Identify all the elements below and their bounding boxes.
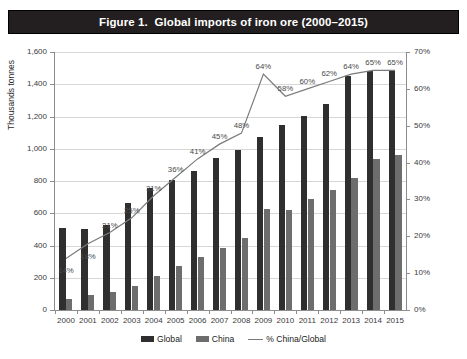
legend-swatch-line-icon bbox=[248, 339, 263, 340]
y-axis-left-tick bbox=[50, 117, 54, 118]
ratio-line-series bbox=[55, 52, 406, 310]
y-axis-right-tick bbox=[406, 52, 410, 53]
y-axis-left-tick bbox=[50, 246, 54, 247]
legend-label-global: Global bbox=[157, 334, 182, 344]
y-axis-right-tick bbox=[406, 163, 410, 164]
ratio-data-label: 60% bbox=[299, 77, 315, 86]
x-axis-tick bbox=[187, 310, 188, 314]
x-axis-tick bbox=[231, 310, 232, 314]
y-axis-left-tick bbox=[50, 213, 54, 214]
y-axis-left-tick-label: 1,200 bbox=[27, 112, 47, 121]
legend-label-ratio: % China/Global bbox=[266, 334, 326, 344]
y-axis-right-tick-label: 70% bbox=[414, 47, 430, 56]
x-axis-tick bbox=[121, 310, 122, 314]
ratio-data-label: 64% bbox=[256, 62, 272, 71]
ratio-data-label: 65% bbox=[387, 58, 403, 67]
y-axis-left-tick-label: 800 bbox=[34, 176, 47, 185]
x-axis-tick bbox=[362, 310, 363, 314]
ratio-data-label: 31% bbox=[146, 184, 162, 193]
y-axis-left-tick bbox=[50, 84, 54, 85]
y-axis-right-tick bbox=[406, 236, 410, 237]
y-axis-right-tick-label: 50% bbox=[414, 121, 430, 130]
ratio-data-label: 25% bbox=[124, 206, 140, 215]
x-axis-tick bbox=[165, 310, 166, 314]
y-axis-right-tick-label: 10% bbox=[414, 268, 430, 277]
y-axis-right-tick bbox=[406, 310, 410, 311]
ratio-data-label: 48% bbox=[234, 121, 250, 130]
chart-legend: Global China % China/Global bbox=[0, 334, 467, 344]
y-axis-right-tick-label: 0% bbox=[414, 305, 426, 314]
page-title: Figure 1. Global imports of iron ore (20… bbox=[99, 16, 368, 28]
ratio-data-label: 18% bbox=[80, 252, 96, 261]
ratio-data-label: 14% bbox=[58, 266, 74, 275]
y-axis-left-tick-label: 200 bbox=[34, 273, 47, 282]
ratio-data-label: 45% bbox=[212, 132, 228, 141]
plot-area: 02004006008001,0001,2001,4001,600 0%10%2… bbox=[55, 52, 406, 310]
y-axis-left-tick bbox=[50, 310, 54, 311]
legend-swatch-china-icon bbox=[196, 336, 209, 342]
x-axis-tick bbox=[209, 310, 210, 314]
legend-item-global[interactable]: Global bbox=[141, 334, 182, 344]
ratio-data-label: 62% bbox=[321, 69, 337, 78]
ratio-data-label: 41% bbox=[190, 147, 206, 156]
y-axis-left-tick-label: 400 bbox=[34, 241, 47, 250]
ratio-data-label: 65% bbox=[365, 58, 381, 67]
ratio-data-label: 21% bbox=[102, 221, 118, 230]
y-axis-right-tick bbox=[406, 89, 410, 90]
ratio-data-label: 58% bbox=[278, 84, 294, 93]
x-axis-tick bbox=[55, 310, 56, 314]
y-axis-left-tick bbox=[50, 181, 54, 182]
x-axis-tick bbox=[252, 310, 253, 314]
y-axis-left-tick-label: 600 bbox=[34, 208, 47, 217]
y-axis-right-tick-label: 30% bbox=[414, 194, 430, 203]
figure-title-bar: Figure 1. Global imports of iron ore (20… bbox=[8, 10, 459, 34]
x-axis-tick bbox=[143, 310, 144, 314]
y-axis-left-tick bbox=[50, 278, 54, 279]
y-axis-left-tick-label: 0 bbox=[43, 305, 47, 314]
ratio-line-path bbox=[66, 70, 395, 258]
figure-chart: Figure 1. Global imports of iron ore (20… bbox=[0, 0, 467, 359]
y-axis-left-tick-label: 1,400 bbox=[27, 79, 47, 88]
y-axis-left-tick-label: 1,600 bbox=[27, 47, 47, 56]
x-axis-tick bbox=[77, 310, 78, 314]
x-axis-tick bbox=[318, 310, 319, 314]
y-axis-right-tick bbox=[406, 199, 410, 200]
legend-swatch-global-icon bbox=[141, 336, 154, 342]
x-axis-tick bbox=[99, 310, 100, 314]
y-axis-right-tick bbox=[406, 126, 410, 127]
x-axis-tick bbox=[340, 310, 341, 314]
y-axis-left-tick bbox=[50, 149, 54, 150]
y-axis-title: Thousands tonnes bbox=[6, 60, 16, 130]
y-axis-right-line bbox=[406, 52, 407, 310]
x-axis-tick bbox=[274, 310, 275, 314]
ratio-data-label: 64% bbox=[343, 62, 359, 71]
ratio-data-label: 36% bbox=[168, 165, 184, 174]
y-axis-right-tick-label: 60% bbox=[414, 84, 430, 93]
x-axis-tick bbox=[384, 310, 385, 314]
y-axis-right-tick bbox=[406, 273, 410, 274]
legend-item-ratio[interactable]: % China/Global bbox=[248, 334, 326, 344]
legend-item-china[interactable]: China bbox=[196, 334, 234, 344]
y-axis-left-tick bbox=[50, 52, 54, 53]
y-axis-right-tick-label: 40% bbox=[414, 158, 430, 167]
x-axis-tick-label: 2015 bbox=[378, 316, 412, 325]
legend-label-china: China bbox=[212, 334, 234, 344]
y-axis-left-tick-label: 1,000 bbox=[27, 144, 47, 153]
y-axis-right-tick-label: 20% bbox=[414, 231, 430, 240]
x-axis-tick bbox=[296, 310, 297, 314]
